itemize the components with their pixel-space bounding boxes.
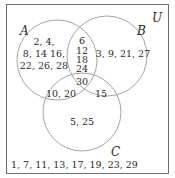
region-b-only-line1: 3, 9, 21, 27 — [96, 48, 150, 59]
region-ac: 10, 20 — [46, 88, 76, 99]
region-outside: 1, 7, 11, 13, 17, 19, 23, 29 — [11, 159, 138, 170]
set-a-label: A — [19, 24, 29, 38]
set-c-label: C — [111, 145, 120, 159]
venn-diagram: U A B C 2, 4, 8, 14 16, 22, 26, 28 6 12 … — [0, 0, 175, 178]
region-a-only-line2: 8, 14 16, — [23, 48, 65, 59]
set-b-label: B — [136, 24, 146, 38]
region-a-only-line3: 22, 26, 28 — [20, 60, 68, 71]
region-bc: 15 — [95, 88, 107, 99]
universe-label: U — [152, 11, 163, 25]
region-ab-line4: 24 — [76, 63, 88, 74]
region-a-only-line1: 2, 4, — [33, 36, 54, 47]
region-abc: 30 — [76, 76, 88, 87]
region-c-only: 5, 25 — [70, 116, 94, 127]
